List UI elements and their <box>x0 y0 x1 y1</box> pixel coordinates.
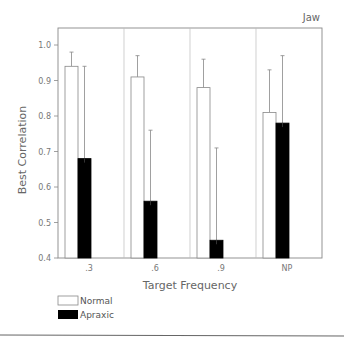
bar-apraxic <box>144 201 157 258</box>
y-axis-title: Best Correlation <box>16 106 29 195</box>
bar-apraxic <box>78 159 91 258</box>
y-tick-label: 0.8 <box>38 112 51 121</box>
x-tick-label: .3 <box>85 264 93 273</box>
bottom-rule <box>0 335 344 336</box>
legend-swatch-normal <box>58 296 78 305</box>
y-tick-label: 0.5 <box>38 219 51 228</box>
bar-apraxic <box>276 123 289 258</box>
legend-label-apraxic: Apraxic <box>80 310 114 320</box>
x-tick-label: .6 <box>151 264 159 273</box>
x-tick-label: .9 <box>217 264 225 273</box>
bar-normal <box>131 77 144 258</box>
y-tick-label: 0.7 <box>38 148 51 157</box>
legend-label-normal: Normal <box>80 296 113 306</box>
bar-normal <box>197 88 210 258</box>
y-tick-label: 0.6 <box>38 183 51 192</box>
bar-chart: 0.40.50.60.70.80.91.0 .3.6.9NP Jaw Targe… <box>0 0 344 342</box>
panel-label: Jaw <box>302 12 320 23</box>
y-tick-label: 0.4 <box>38 254 51 263</box>
y-tick-label: 0.9 <box>38 77 51 86</box>
bar-normal <box>263 112 276 258</box>
legend-swatch-apraxic <box>58 310 78 319</box>
bars <box>65 28 289 258</box>
bar-normal <box>65 66 78 258</box>
x-axis: .3.6.9NP <box>85 264 292 273</box>
x-tick-label: NP <box>282 264 293 273</box>
y-axis: 0.40.50.60.70.80.91.0 <box>38 41 58 263</box>
x-axis-title: Target Frequency <box>142 279 238 292</box>
y-tick-label: 1.0 <box>38 41 51 50</box>
legend: Normal Apraxic <box>58 296 114 320</box>
